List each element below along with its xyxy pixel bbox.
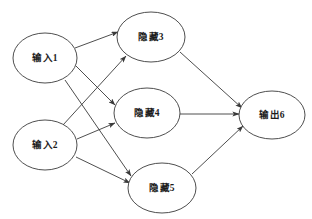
edge-hidden5-to-output6	[192, 126, 243, 174]
node-hidden3-label: 隐藏3	[138, 31, 163, 42]
node-output6[interactable]: 输出6	[239, 91, 305, 139]
node-hidden4-label: 隐藏4	[134, 107, 159, 118]
neural-network-diagram: 输入1 输入2 隐藏3 隐藏4 隐藏5 输出6	[0, 0, 312, 219]
node-hidden5-label: 隐藏5	[149, 182, 174, 193]
edge-input2-to-hidden5	[76, 157, 130, 183]
edge-input1-to-hidden4	[76, 66, 115, 105]
node-output6-label: 输出6	[259, 109, 284, 120]
node-hidden4[interactable]: 隐藏4	[114, 88, 180, 138]
node-hidden3[interactable]: 隐藏3	[117, 12, 185, 62]
node-input2-label: 输入2	[32, 139, 57, 150]
node-input2[interactable]: 输入2	[13, 120, 77, 170]
diagram-canvas: 输入1 输入2 隐藏3 隐藏4 隐藏5 输出6	[0, 0, 312, 219]
edge-input1-to-hidden3	[75, 32, 118, 48]
edge-hidden3-to-output6	[180, 52, 242, 108]
node-input1-label: 输入1	[32, 52, 57, 63]
node-input1[interactable]: 输入1	[13, 33, 77, 83]
node-hidden5[interactable]: 隐藏5	[128, 163, 196, 213]
edge-group-hidden-to-output	[180, 52, 243, 174]
